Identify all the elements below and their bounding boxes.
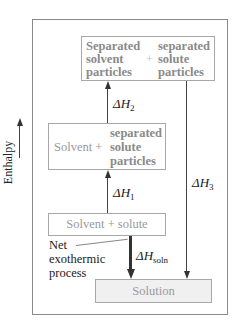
- delta-h1-subscript: 1: [130, 192, 135, 202]
- annotation-line-3: process: [49, 267, 87, 280]
- delta-h1-symbol: ΔH: [113, 185, 130, 200]
- annotation-line-1: Net: [49, 239, 67, 252]
- delta-h3-symbol: ΔH: [192, 175, 209, 190]
- level-separated-left-line-3: particles: [86, 66, 132, 79]
- level-initial-label: Solvent + solute: [49, 218, 165, 231]
- level-intermediate-right-line-2: solute: [110, 141, 141, 154]
- level-final-label: Solution: [96, 285, 211, 298]
- delta-hsoln-arrowhead-icon: [127, 269, 135, 279]
- delta-h2-subscript: 2: [130, 103, 135, 113]
- delta-h3-label: ΔH3: [192, 175, 214, 192]
- level-separated-particles: Separated solvent particles + separated …: [81, 36, 215, 81]
- delta-h1-arrowhead-icon: [105, 170, 111, 178]
- delta-h2-symbol: ΔH: [113, 96, 130, 111]
- level-separated-right-line-3: particles: [158, 66, 204, 79]
- level-initial: Solvent + solute: [48, 213, 166, 236]
- annotation-line-2: exothermic: [49, 253, 105, 266]
- delta-hsoln-symbol: ΔH: [136, 248, 153, 263]
- level-intermediate: Solvent + separated solute particles: [48, 123, 166, 170]
- delta-h3-arrow: [186, 81, 187, 271]
- delta-hsoln-subscript: soln: [153, 255, 168, 265]
- enthalpy-axis-label: Enthalpy: [1, 141, 16, 184]
- delta-h1-label: ΔH1: [113, 185, 135, 202]
- delta-hsoln-label: ΔHsoln: [136, 248, 168, 265]
- delta-h1-arrow: [107, 175, 108, 213]
- delta-h2-arrow: [107, 86, 108, 123]
- delta-h2-label: ΔH2: [113, 96, 135, 113]
- delta-h3-arrowhead-icon: [184, 271, 190, 279]
- level-intermediate-left: Solvent +: [54, 141, 102, 154]
- delta-hsoln-arrow: [129, 236, 132, 269]
- delta-h2-arrowhead-icon: [105, 81, 111, 89]
- enthalpy-axis-arrowhead-icon: [17, 118, 23, 126]
- level-final: Solution: [95, 279, 212, 303]
- delta-h3-subscript: 3: [209, 182, 214, 192]
- enthalpy-axis-arrow: [19, 123, 20, 158]
- level-intermediate-right-line-3: particles: [110, 155, 156, 168]
- level-separated-plus: +: [146, 53, 153, 66]
- level-intermediate-right-line-1: separated: [110, 127, 162, 140]
